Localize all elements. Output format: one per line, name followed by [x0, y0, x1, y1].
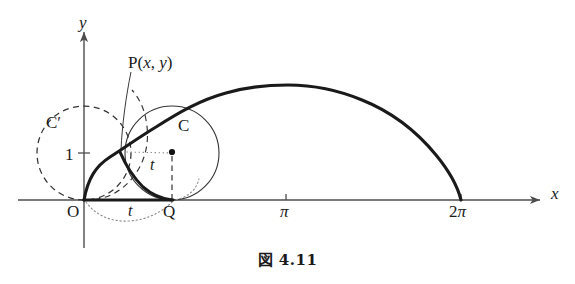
origin-label: O [67, 203, 79, 220]
figure-caption: 図 4.11 [0, 248, 575, 269]
y-tick-label-1: 1 [65, 146, 74, 163]
angle-label-t-upper: t [150, 157, 154, 173]
leader-line-p [121, 72, 131, 150]
radius-c-to-p [126, 152, 172, 153]
point-label-c-prime: C′ [46, 114, 61, 131]
point-label-q: Q [163, 203, 175, 220]
figure-container: y x 1 π 2π O Q C C′ P(x, y) t t 図 4.11 [0, 0, 575, 284]
x-tick-label-2pi: 2π [449, 203, 466, 220]
point-label-p: P(x, y) [128, 54, 172, 71]
y-axis-label: y [79, 14, 87, 31]
angle-label-t-lower: t [128, 203, 132, 219]
point-c-dot [169, 149, 175, 155]
x-axis-label: x [551, 185, 559, 202]
angle-arc-upper [172, 179, 199, 200]
point-label-c: C [178, 117, 189, 134]
x-tick-label-pi: π [280, 203, 289, 220]
cycloid-plot [0, 0, 575, 284]
